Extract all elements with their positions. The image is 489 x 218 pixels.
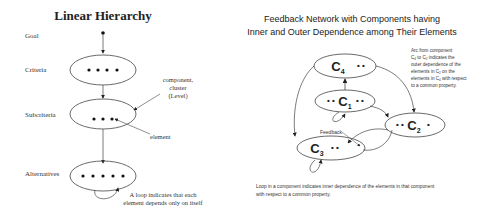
subcriteria-cluster — [70, 99, 136, 129]
loop-note-line2: with respect to a common property. — [256, 192, 331, 197]
c4-to-c2-arc — [376, 66, 414, 112]
feedback-pointer — [342, 132, 360, 146]
c1-label: C1 — [338, 94, 351, 110]
component-c4 — [314, 54, 376, 78]
arc-note-line6: to a common property. — [411, 83, 457, 88]
arc-note: Arc from component C4 to C2 indicates th… — [411, 48, 467, 88]
self-loop-arrow — [95, 188, 118, 199]
c4-to-c3-arc — [294, 66, 314, 136]
feedback-title-line1: Feedback Network with Components having — [264, 14, 440, 24]
level-label-subcriteria: Subcriteria — [25, 111, 57, 119]
subcriteria-elements — [92, 117, 113, 120]
arc-note-line4: elements in C2 on the — [411, 69, 455, 75]
feedback-title-line2: Inner and Outer Dependence among Their E… — [247, 27, 457, 37]
arc-note-line3: outer dependence of the — [411, 62, 461, 67]
goal-element — [101, 31, 105, 35]
loop-annotation-line2: element depends only on itself — [123, 199, 203, 206]
c2-label: C2 — [407, 118, 420, 134]
linear-hierarchy-title: Linear Hierarchy — [54, 8, 152, 23]
level-label-alternatives: Alternatives — [25, 170, 59, 178]
component-pointer — [134, 94, 160, 110]
c3-self-loop — [310, 160, 321, 172]
c3-to-c2-arc — [363, 130, 392, 150]
c2-elements-left: • • — [396, 120, 404, 129]
c3-label: C3 — [310, 141, 323, 157]
c2-to-c3-arc — [348, 129, 388, 143]
alternatives-elements — [81, 174, 124, 177]
arc-note-line2: C4 to C2 indicates the — [411, 55, 455, 61]
level-label-goal: Goal — [25, 32, 39, 40]
c4-elements: • • — [357, 61, 365, 70]
loop-annotation-line1: A loop indicates that each — [129, 191, 197, 198]
c4-label: C4 — [331, 59, 344, 75]
diagram-canvas: Linear Hierarchy Goal Criteria Subcriter… — [0, 0, 489, 218]
c1-self-loop — [333, 112, 345, 122]
c2-elements-right: • — [427, 120, 430, 129]
feedback-network: Feedback Network with Components having … — [247, 14, 467, 197]
criteria-elements — [87, 68, 118, 71]
component-annotation-line1: component, — [163, 76, 194, 83]
arc-note-line1: Arc from component — [411, 48, 453, 53]
element-annotation: element — [150, 133, 171, 140]
c1-to-c2-arc — [370, 106, 388, 117]
criteria-cluster — [70, 55, 136, 85]
c1-elements-left: • • — [327, 96, 335, 105]
arc-note-line5: elements in C4 with respect — [411, 76, 467, 82]
component-annotation-line3: (Level) — [168, 92, 187, 100]
c3-elements: • • — [331, 143, 339, 152]
component-annotation-line2: cluster — [169, 84, 187, 91]
loop-note-line1: Loop in a component indicates inner depe… — [256, 184, 435, 189]
feedback-label: Feedback — [320, 129, 342, 135]
linear-hierarchy: Linear Hierarchy Goal Criteria Subcriter… — [25, 8, 204, 206]
c1-elements-right: • • — [356, 96, 364, 105]
level-label-criteria: Criteria — [25, 66, 47, 74]
